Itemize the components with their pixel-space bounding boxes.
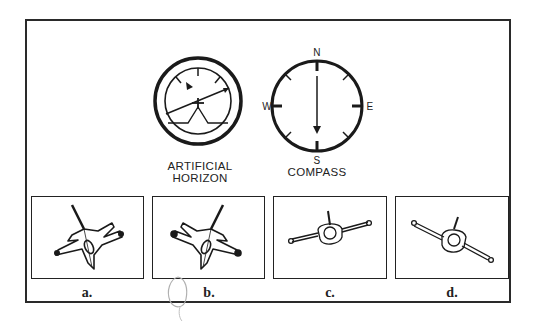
artificial-horizon-label: ARTIFICIAL HORIZON: [160, 160, 240, 184]
aircraft-icon-b: [153, 197, 263, 277]
choice-panel-c[interactable]: [273, 196, 387, 279]
compass-east-label: E: [364, 101, 376, 113]
compass-icon: [262, 54, 372, 164]
choice-panel-b[interactable]: [152, 196, 265, 279]
choice-label-c[interactable]: c.: [310, 285, 350, 301]
aircraft-icon-c: [274, 197, 386, 277]
aircraft-icon-d: [396, 197, 508, 277]
artificial-horizon-label-line1: ARTIFICIAL: [160, 160, 240, 172]
choice-label-a[interactable]: a.: [67, 285, 107, 301]
compass-label: COMPASS: [282, 166, 352, 178]
compass-north-label: N: [311, 47, 323, 59]
artificial-horizon-icon: [152, 55, 262, 155]
compass-west-label: W: [261, 101, 273, 113]
aircraft-icon-a: [32, 197, 142, 277]
choice-label-d[interactable]: d.: [432, 285, 472, 301]
choice-panel-d[interactable]: [395, 196, 509, 279]
pencil-circle-mark: [160, 273, 200, 323]
choice-panel-a[interactable]: [31, 196, 144, 279]
artificial-horizon-label-line2: HORIZON: [160, 172, 240, 184]
